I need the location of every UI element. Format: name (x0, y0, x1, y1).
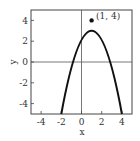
x-tick-label: -2 (57, 117, 66, 127)
y-tick-label: 2 (22, 36, 28, 46)
x-tick-label: -4 (37, 117, 46, 127)
y-tick-label: -2 (19, 78, 28, 88)
y-tick-label: 0 (22, 57, 28, 67)
x-tick-label: 4 (119, 117, 125, 127)
vertex-label: (1, 4) (96, 11, 120, 21)
y-tick-label: 4 (22, 16, 28, 26)
parabola-chart: -4 -2 0 2 4 4 2 0 -2 -4 x y (1, 4) (0, 0, 140, 141)
parabola-curve (61, 31, 122, 114)
x-tick-label: 2 (99, 117, 105, 127)
vertex-dot (89, 18, 93, 22)
y-tick-label: -4 (19, 99, 28, 109)
x-tick-labels: -4 -2 0 2 4 (37, 117, 125, 127)
y-tick-labels: 4 2 0 -2 -4 (19, 16, 28, 109)
x-tick-label: 0 (79, 117, 85, 127)
x-axis-title: x (79, 127, 84, 137)
y-axis-title: y (8, 59, 18, 66)
